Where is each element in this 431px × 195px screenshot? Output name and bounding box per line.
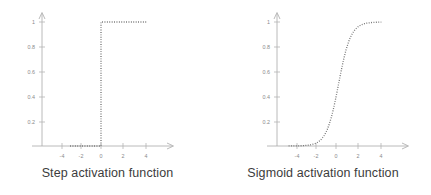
sigmoid-function-curve <box>289 22 382 146</box>
sigmoid-y-tick-label: 0.6 <box>263 69 271 75</box>
sigmoid-x-tick-label: -2 <box>314 153 319 159</box>
sigmoid-function-plot: 1 0.8 0.6 0.4 0.2 -4 -2 0 2 4 <box>215 0 431 166</box>
sigmoid-y-tick-label: 1 <box>267 19 270 25</box>
sigmoid-x-tick-label: -4 <box>295 153 300 159</box>
step-function-plot: 1 0.8 0.6 0.4 0.2 -4 -2 0 2 4 <box>0 0 215 166</box>
step-function-curve <box>70 22 146 146</box>
step-function-caption: Step activation function <box>0 166 215 180</box>
step-x-tick-label: 0 <box>100 153 103 159</box>
step-y-tick-label: 0.6 <box>28 69 36 75</box>
sigmoid-x-tick-label: 4 <box>380 153 383 159</box>
step-function-panel: 1 0.8 0.6 0.4 0.2 -4 -2 0 2 4 Step activ… <box>0 0 215 195</box>
step-x-tick-label: 4 <box>145 153 148 159</box>
sigmoid-function-panel: 1 0.8 0.6 0.4 0.2 -4 -2 0 2 4 Sigmoid ac… <box>215 0 431 195</box>
sigmoid-x-tick-label: 2 <box>357 153 360 159</box>
sigmoid-x-tick-label: 0 <box>335 153 338 159</box>
activation-functions-figure: 1 0.8 0.6 0.4 0.2 -4 -2 0 2 4 Step activ… <box>0 0 431 195</box>
step-x-tick-label: -4 <box>60 153 65 159</box>
step-y-tick-label: 0.2 <box>28 119 36 125</box>
sigmoid-y-tick-label: 0.8 <box>263 44 271 50</box>
sigmoid-function-caption: Sigmoid activation function <box>215 166 431 180</box>
sigmoid-y-tick-label: 0.2 <box>263 119 271 125</box>
step-x-tick-label: 2 <box>122 153 125 159</box>
sigmoid-y-tick-label: 0.4 <box>263 94 271 100</box>
step-x-tick-label: -2 <box>79 153 84 159</box>
step-y-tick-label: 1 <box>32 19 35 25</box>
step-y-tick-label: 0.4 <box>28 94 36 100</box>
step-y-tick-label: 0.8 <box>28 44 36 50</box>
